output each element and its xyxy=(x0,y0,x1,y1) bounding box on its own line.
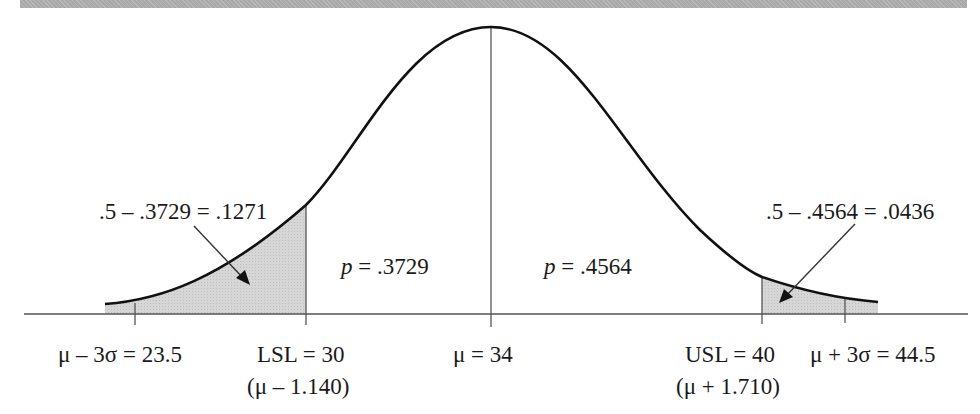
p-right-var: p xyxy=(544,254,556,279)
usl-label: USL = 40 xyxy=(685,343,775,366)
p-left-label: p = .3729 xyxy=(341,255,429,278)
p-right-value: = .4564 xyxy=(556,254,632,279)
mean-label: μ = 34 xyxy=(453,343,513,366)
upper-tail-annotation: .5 – .4564 = .0436 xyxy=(766,200,934,223)
m3sigma-label: μ – 3σ = 23.5 xyxy=(58,343,182,366)
p-right-label: p = .4564 xyxy=(544,255,632,278)
p-left-var: p xyxy=(341,254,353,279)
upper-tail-arrow xyxy=(785,224,855,297)
p-left-value: = .3729 xyxy=(353,254,429,279)
p3sigma-label: μ + 3σ = 44.5 xyxy=(810,343,935,366)
lsl-label: LSL = 30 xyxy=(257,343,345,366)
usl-sublabel: (μ + 1.710) xyxy=(676,375,780,398)
lsl-sublabel: (μ – 1.140) xyxy=(247,375,349,398)
lower-tail-annotation: .5 – .3729 = .1271 xyxy=(99,200,267,223)
